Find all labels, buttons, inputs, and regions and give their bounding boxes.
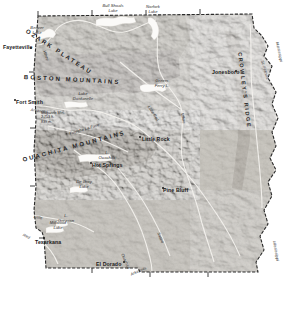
city-dot-little-rock [139, 136, 141, 138]
city-dot-pine-bluff [162, 187, 164, 189]
city-dot-fayetteville [30, 47, 32, 49]
city-dot-el-dorado [123, 261, 125, 263]
map-canvas: OZARK PLATEAUBOSTON MOUNTAINSOUACHITA MO… [0, 0, 296, 285]
topographic-map-page: OZARK PLATEAUBOSTON MOUNTAINSOUACHITA MO… [0, 0, 296, 327]
city-dot-texarkana [43, 237, 45, 239]
city-dot-hot-springs [90, 162, 92, 164]
city-dot-fort-smith [14, 99, 16, 101]
topography-legend: TOPOGRAPHY Below sea levelSea Level100 m… [0, 285, 296, 327]
arkansas-map-svg [0, 0, 296, 285]
city-dot-jonesboro [235, 70, 237, 72]
